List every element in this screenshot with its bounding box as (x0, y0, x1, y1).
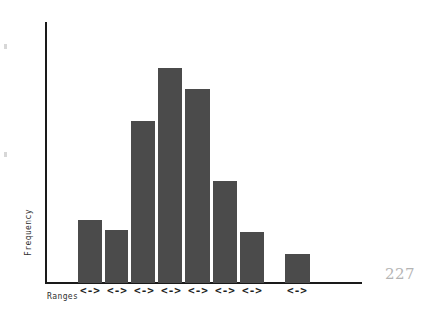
scanned-page: <-><-><-><-><-><-><-><-> Frequency Range… (0, 0, 432, 324)
bin-range-marker: <-> (75, 284, 105, 298)
plot-area (47, 22, 362, 283)
histogram-bar (131, 121, 155, 283)
bin-range-marker: <-> (156, 284, 186, 298)
histogram-chart: <-><-><-><-><-><-><-><-> Frequency Range… (0, 0, 432, 324)
histogram-bar (78, 220, 102, 283)
histogram-bar (185, 89, 210, 283)
y-axis-label: Frequency (24, 202, 33, 264)
bin-range-marker: <-> (102, 284, 132, 298)
bin-range-marker: <-> (129, 284, 159, 298)
histogram-bar (240, 232, 264, 283)
histogram-bar (213, 181, 237, 283)
histogram-bar (285, 254, 310, 283)
page-number: 227 (385, 265, 415, 283)
histogram-bar (105, 230, 128, 283)
bin-range-markers: <-><-><-><-><-><-><-><-> (47, 284, 362, 300)
bin-range-marker: <-> (183, 284, 213, 298)
bin-range-marker: <-> (282, 284, 312, 298)
bin-range-marker: <-> (210, 284, 240, 298)
bin-range-marker: <-> (237, 284, 267, 298)
histogram-bar (158, 68, 182, 283)
x-axis-label: Ranges (47, 292, 78, 301)
